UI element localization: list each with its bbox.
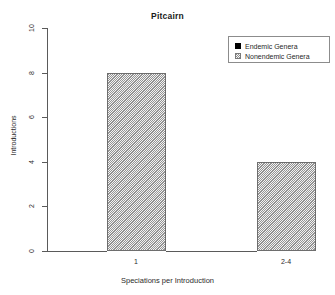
x-axis-line-left bbox=[48, 251, 107, 252]
y-tick-label-8: 8 bbox=[28, 63, 36, 83]
y-tick-mark-10 bbox=[42, 28, 47, 29]
y-tick-mark-4 bbox=[42, 162, 47, 163]
y-tick-mark-2 bbox=[42, 206, 47, 207]
y-tick-label-0: 0 bbox=[28, 241, 36, 261]
y-tick-label-4: 4 bbox=[28, 152, 36, 172]
y-tick-mark-6 bbox=[42, 117, 47, 118]
legend-swatch-endemic-icon bbox=[235, 43, 241, 49]
x-axis-line-mid bbox=[166, 251, 257, 252]
chart-legend: Endemic Genera Nonendemic Genera bbox=[228, 36, 330, 63]
x-tick-label-2-4: 2-4 bbox=[266, 258, 306, 265]
y-axis-line bbox=[47, 28, 48, 252]
y-axis-title: Introductions bbox=[10, 101, 17, 171]
legend-label-endemic: Endemic Genera bbox=[245, 43, 298, 50]
y-tick-label-2: 2 bbox=[28, 196, 36, 216]
bar-category-1 bbox=[107, 73, 166, 251]
bar-chart-figure: Pitcairn 10 8 6 4 2 0 Introductions 1 2-… bbox=[0, 0, 335, 295]
legend-label-nonendemic: Nonendemic Genera bbox=[245, 53, 310, 60]
bar-category-2-4 bbox=[257, 162, 316, 251]
chart-title: Pitcairn bbox=[0, 11, 335, 21]
legend-item-endemic: Endemic Genera bbox=[235, 41, 298, 51]
y-tick-mark-0 bbox=[42, 251, 47, 252]
y-tick-label-10: 10 bbox=[28, 18, 36, 38]
legend-item-nonendemic: Nonendemic Genera bbox=[235, 51, 310, 61]
y-tick-label-6: 6 bbox=[28, 107, 36, 127]
legend-swatch-nonendemic-icon bbox=[235, 53, 241, 59]
x-tick-label-1: 1 bbox=[116, 258, 156, 265]
y-tick-mark-8 bbox=[42, 73, 47, 74]
x-axis-title: Speciations per Introduction bbox=[0, 276, 335, 285]
